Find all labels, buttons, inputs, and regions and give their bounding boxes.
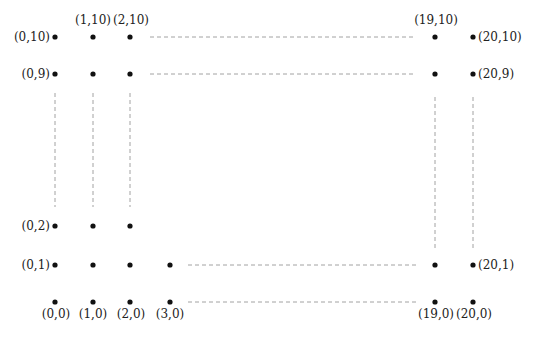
label-3-0: (3,0)	[156, 307, 184, 321]
point-3-0	[167, 299, 172, 304]
point-2-9	[127, 71, 132, 76]
point-1-0	[90, 299, 95, 304]
point-0-0	[52, 299, 57, 304]
point-1-10	[90, 34, 95, 39]
label-19-10: (19,10)	[414, 13, 458, 27]
point-2-0	[127, 299, 132, 304]
label-0-9: (0,9)	[22, 67, 50, 81]
point-19-10	[432, 34, 437, 39]
label-20-9: (20,9)	[478, 67, 514, 81]
grid-points	[52, 34, 475, 304]
label-19-0: (19,0)	[418, 307, 454, 321]
label-2-0: (2,0)	[117, 307, 145, 321]
label-0-2: (0,2)	[22, 219, 50, 233]
point-2-2	[127, 223, 132, 228]
lattice-diagram: (0,10) (1,10) (2,10) (19,10) (20,10) (0,…	[0, 0, 538, 342]
point-labels: (0,10) (1,10) (2,10) (19,10) (20,10) (0,…	[14, 13, 522, 321]
label-0-1: (0,1)	[22, 258, 50, 272]
point-20-1	[470, 262, 475, 267]
label-1-0: (1,0)	[79, 307, 107, 321]
point-0-9	[52, 71, 57, 76]
point-1-9	[90, 71, 95, 76]
label-0-0: (0,0)	[42, 307, 70, 321]
point-2-1	[127, 262, 132, 267]
point-19-9	[432, 71, 437, 76]
label-20-0: (20,0)	[456, 307, 492, 321]
dashed-lines	[55, 37, 473, 302]
point-0-10	[52, 34, 57, 39]
point-20-10	[470, 34, 475, 39]
label-20-10: (20,10)	[478, 30, 522, 44]
point-2-10	[127, 34, 132, 39]
point-0-2	[52, 223, 57, 228]
point-19-0	[432, 299, 437, 304]
label-20-1: (20,1)	[478, 258, 514, 272]
point-1-1	[90, 262, 95, 267]
label-1-10: (1,10)	[75, 13, 111, 27]
label-0-10: (0,10)	[14, 30, 50, 44]
point-20-9	[470, 71, 475, 76]
point-3-1	[167, 262, 172, 267]
point-19-1	[432, 262, 437, 267]
point-0-1	[52, 262, 57, 267]
label-2-10: (2,10)	[113, 13, 149, 27]
point-20-0	[470, 299, 475, 304]
point-1-2	[90, 223, 95, 228]
